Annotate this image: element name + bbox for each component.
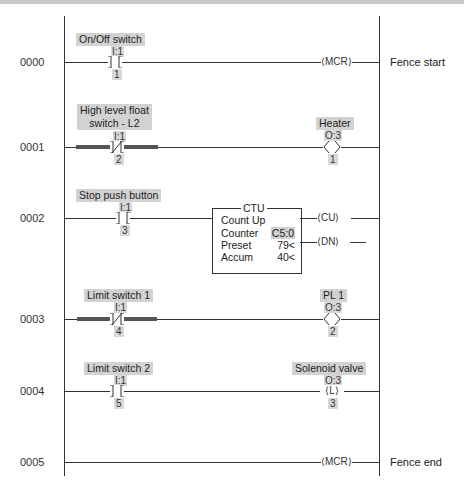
dn-wire [300,242,318,243]
coil-address: O:3 [324,302,342,313]
rung-number: 0001 [20,141,44,153]
left-power-rail [64,16,65,476]
dn-wire-right [350,242,366,243]
rung-number: 0003 [20,313,44,325]
coil-label: Heater [316,117,354,130]
accum-label: Accum [221,251,253,263]
contact-bit: 4 [114,326,124,337]
latch-coil-icon[interactable]: ⟨L⟩ [320,385,344,397]
normally-open-contact-icon[interactable] [116,212,130,224]
contact-bit: 3 [120,225,130,236]
coil-close-bracket-icon: ⟩ [335,236,339,247]
mcr-coil[interactable]: ⟨MCR⟩ [321,56,352,67]
preset-value[interactable]: 79< [277,239,295,251]
cu-wire-right [351,218,379,219]
coil-bit: 1 [328,154,338,165]
normally-closed-contact-icon[interactable] [110,141,124,153]
cu-wire [300,218,318,219]
coil-bit: 3 [328,398,338,409]
rung-number: 0004 [20,385,44,397]
contact-label: Limit switch 2 [84,362,153,375]
coil-label: Solenoid valve [292,362,366,375]
mcr-coil[interactable]: ⟨MCR⟩ [321,456,352,467]
coil-close-bracket-icon: ⟩ [335,385,339,396]
rung-wire [64,218,212,219]
counter-label: Counter [221,227,258,239]
rung-number: 0002 [20,212,44,224]
coil-label: MCR [325,56,348,67]
preset-label: Preset [221,239,251,251]
right-power-rail [379,16,380,476]
block-name: Count Up [221,214,265,226]
rung-comment: Fence end [390,456,442,468]
rung-number: 0005 [20,456,44,468]
contact-label: Stop push button [76,189,161,202]
contact-bit: 5 [114,398,124,409]
output-coil-icon[interactable] [323,141,341,153]
contact-bit: 1 [112,69,122,80]
coil-close-bracket-icon: ⟩ [348,56,352,67]
coil-bit: 2 [328,326,338,337]
coil-label: CU [321,212,335,223]
contact-label: On/Off switch [76,33,145,46]
contact-label-line2: switch - L2 [80,117,149,130]
block-title: CTU [241,202,267,214]
normally-open-contact-icon[interactable] [108,56,122,68]
coil-close-bracket-icon: ⟩ [335,212,339,223]
top-band [0,0,464,4]
coil-label: DN [321,236,335,247]
contact-label: Limit switch 1 [84,289,153,302]
normally-open-contact-icon[interactable] [110,385,124,397]
cu-output[interactable]: ⟨CU⟩ [317,212,339,223]
coil-label: MCR [325,456,348,467]
contact-bit: 2 [114,154,124,165]
accum-value[interactable]: 40< [277,251,295,263]
rung-comment: Fence start [390,56,445,68]
dn-output[interactable]: ⟨DN⟩ [317,236,339,247]
counter-value[interactable]: C5:0 [271,227,295,239]
contact-label: High level float switch - L2 [77,104,152,130]
rung-number: 0000 [20,56,44,68]
normally-closed-contact-icon[interactable] [110,313,124,325]
output-coil-icon[interactable] [323,313,341,325]
coil-close-bracket-icon: ⟩ [348,456,352,467]
contact-label-line1: High level float [80,104,149,117]
coil-address: O:3 [324,130,342,141]
ctu-instruction-block[interactable]: CTU Count Up Counter C5:0 Preset 79< Acc… [212,208,302,274]
coil-label: PL 1 [320,289,347,302]
contact-address: I:1 [114,302,127,313]
